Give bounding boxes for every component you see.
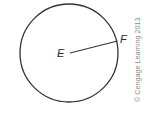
- circle-diagram: E F © Cengage Learning 2013: [0, 0, 148, 120]
- label-center-e: E: [57, 47, 65, 59]
- circle-e: [20, 4, 118, 102]
- radius-ef: [70, 41, 118, 53]
- label-point-f: F: [120, 33, 128, 45]
- copyright-text: © Cengage Learning 2013: [133, 18, 142, 102]
